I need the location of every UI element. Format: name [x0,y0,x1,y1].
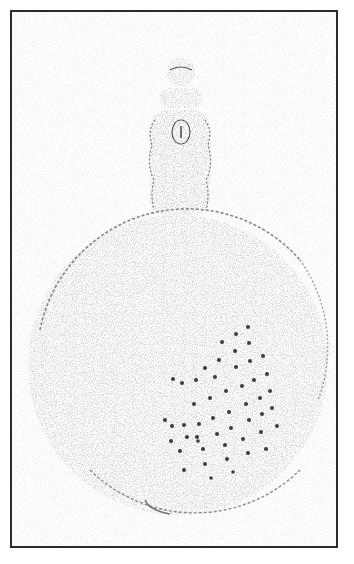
paper-texture [12,12,336,546]
flask-illustration [0,0,354,564]
